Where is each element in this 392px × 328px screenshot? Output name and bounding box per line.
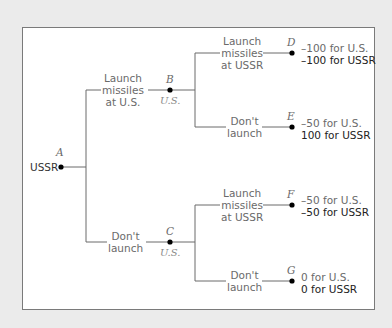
node-g-letter: G (287, 264, 295, 276)
payoff-d-us: –100 for U.S. (301, 42, 376, 54)
branch-c-dont-launch: Don't launch (227, 269, 262, 293)
payoff-e: –50 for U.S. 100 for USSR (301, 117, 370, 141)
payoff-d: –100 for U.S. –100 for USSR (301, 42, 376, 66)
branch-b-launch-at-ussr: Launch missiles at USSR (221, 35, 263, 71)
payoff-f: –50 for U.S. –50 for USSR (301, 194, 369, 218)
node-f-dot (289, 202, 294, 207)
node-c-player: U.S. (160, 247, 180, 258)
payoff-d-ussr: –100 for USSR (301, 54, 376, 66)
branch-launch-at-us: Launch missiles at U.S. (102, 72, 144, 108)
branch-c-launch-at-ussr: Launch missiles at USSR (221, 187, 263, 223)
root-player-label: USSR (30, 161, 58, 173)
payoff-e-us: –50 for U.S. (301, 117, 370, 129)
node-d-letter: D (287, 36, 295, 48)
node-e-letter: E (287, 110, 295, 122)
node-d-dot (289, 50, 294, 55)
node-e-dot (289, 124, 294, 129)
node-b-letter: B (166, 73, 174, 85)
payoff-f-ussr: –50 for USSR (301, 206, 369, 218)
branch-dont-launch-ussr: Don't launch (108, 230, 143, 254)
node-b-player: U.S. (160, 95, 180, 106)
node-f-letter: F (287, 188, 294, 200)
payoff-e-ussr: 100 for USSR (301, 129, 370, 141)
payoff-g: 0 for U.S. 0 for USSR (301, 271, 357, 295)
node-a-letter: A (56, 146, 64, 158)
node-a-dot (58, 164, 63, 169)
payoff-f-us: –50 for U.S. (301, 194, 369, 206)
payoff-g-us: 0 for U.S. (301, 271, 357, 283)
branch-b-dont-launch: Don't launch (227, 115, 262, 139)
payoff-g-ussr: 0 for USSR (301, 283, 357, 295)
node-b-dot (167, 87, 172, 92)
node-c-letter: C (166, 225, 174, 237)
node-c-dot (167, 239, 172, 244)
node-g-dot (289, 278, 294, 283)
